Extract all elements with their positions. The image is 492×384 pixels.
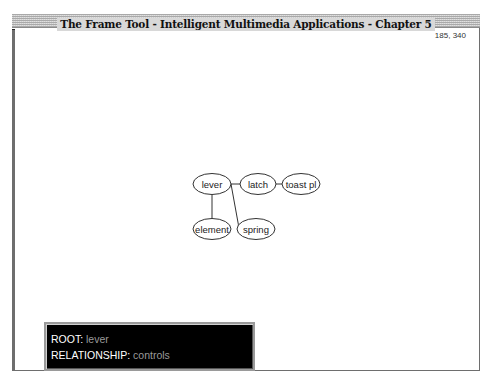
node-toast_pl[interactable]: toast pl [282, 174, 320, 195]
relationship-row: RELATIONSHIP: controls [51, 347, 253, 363]
root-row: ROOT: lever [51, 331, 253, 347]
node-label: lever [202, 179, 223, 190]
relationship-value: controls [133, 349, 170, 361]
relationship-label: RELATIONSHIP: [51, 349, 130, 361]
node-element[interactable]: element [193, 219, 231, 240]
node-label: spring [243, 224, 269, 235]
root-value: lever [86, 333, 109, 345]
node-lever[interactable]: lever [193, 174, 231, 195]
node-latch[interactable]: latch [240, 174, 276, 195]
node-spring[interactable]: spring [237, 219, 275, 240]
edge-lever-spring [231, 184, 239, 228]
info-panel: ROOT: lever RELATIONSHIP: controls [44, 322, 255, 371]
node-label: toast pl [286, 179, 317, 190]
node-label: element [195, 224, 229, 235]
node-label: latch [248, 179, 268, 190]
root-label: ROOT: [51, 333, 83, 345]
